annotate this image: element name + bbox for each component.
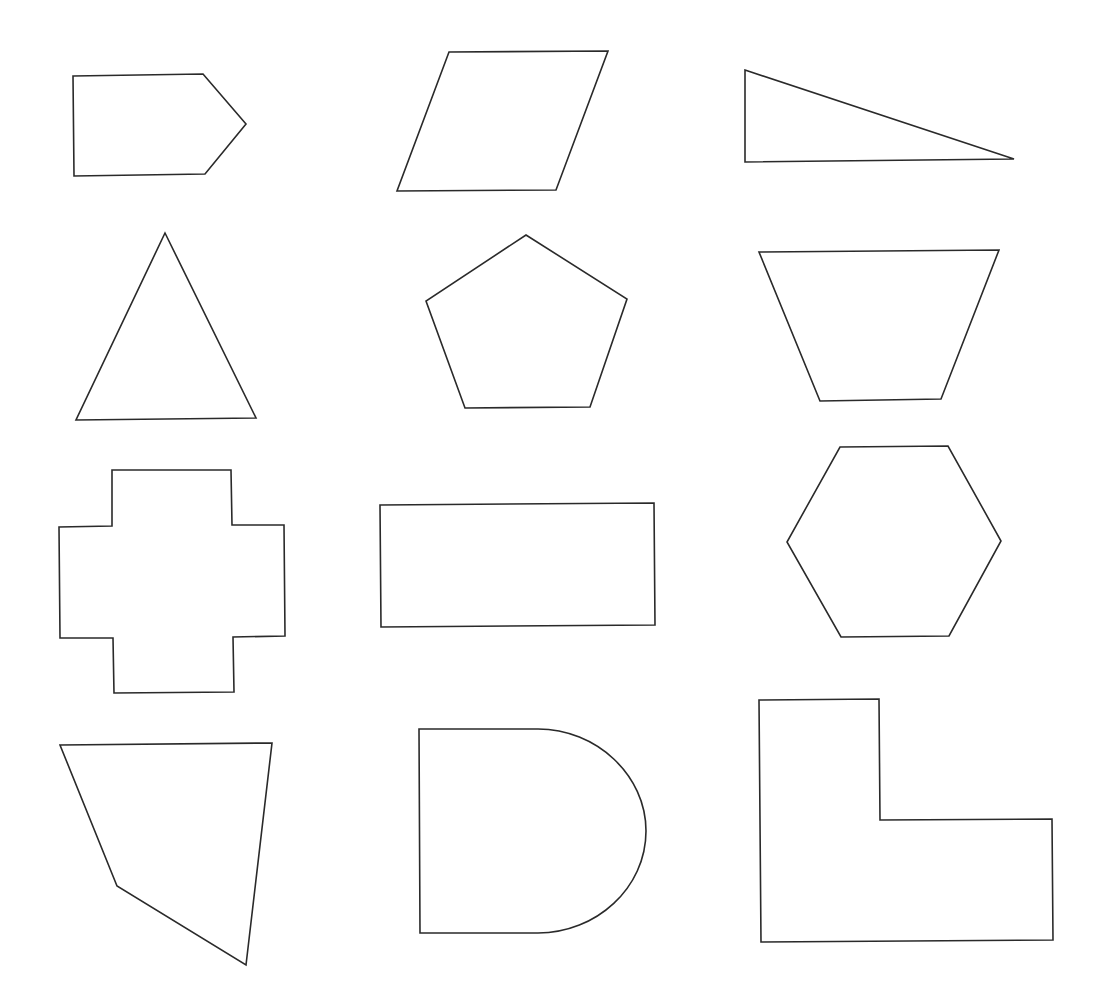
shapes-canvas bbox=[0, 0, 1098, 1008]
